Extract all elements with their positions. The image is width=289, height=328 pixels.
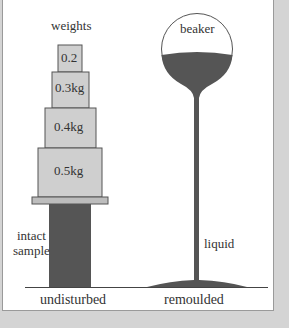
intact-sample (49, 204, 91, 287)
caption-remoulded: remoulded (164, 292, 224, 308)
weight-label-0-5kg: 0.5kg (54, 163, 83, 179)
caption-undisturbed: undisturbed (40, 292, 106, 308)
weight-label-0-4kg: 0.4kg (54, 119, 83, 135)
beaker-label: beaker (180, 21, 215, 37)
diagram-canvas (0, 0, 289, 328)
sample-label-line2: sample (13, 243, 50, 259)
load-plate (32, 197, 108, 204)
liquid-puddle (147, 280, 247, 287)
liquid-label: liquid (204, 236, 234, 252)
sample-label-line1: intact (17, 228, 46, 244)
weight-label-0-3kg: 0.3kg (55, 80, 84, 96)
weights-title: weights (51, 18, 91, 34)
weight-label-0-2: 0.2 (61, 50, 77, 66)
